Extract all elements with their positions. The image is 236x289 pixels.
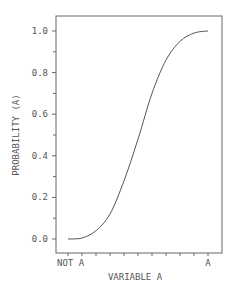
- sigmoid-probability-chart: 0.00.20.40.60.81.0 NOT AA PROBABILITY (A…: [0, 0, 236, 289]
- x-axis-ticks: NOT AA: [57, 253, 211, 268]
- x-tick-label-a: A: [205, 258, 211, 268]
- y-tick-label: 0.6: [32, 109, 48, 119]
- y-tick-label: 0.8: [32, 68, 48, 78]
- y-tick-label: 0.2: [32, 192, 48, 202]
- y-axis-title: PROBABILITY (A): [11, 94, 21, 175]
- x-axis-title: VARIABLE A: [108, 272, 163, 282]
- y-axis-ticks: 0.00.20.40.60.81.0: [32, 26, 56, 244]
- y-tick-label: 0.0: [32, 234, 48, 244]
- y-tick-label: 0.4: [32, 151, 48, 161]
- y-tick-label: 1.0: [32, 26, 48, 36]
- x-tick-label-not-a: NOT A: [57, 258, 85, 268]
- probability-curve: [68, 31, 208, 239]
